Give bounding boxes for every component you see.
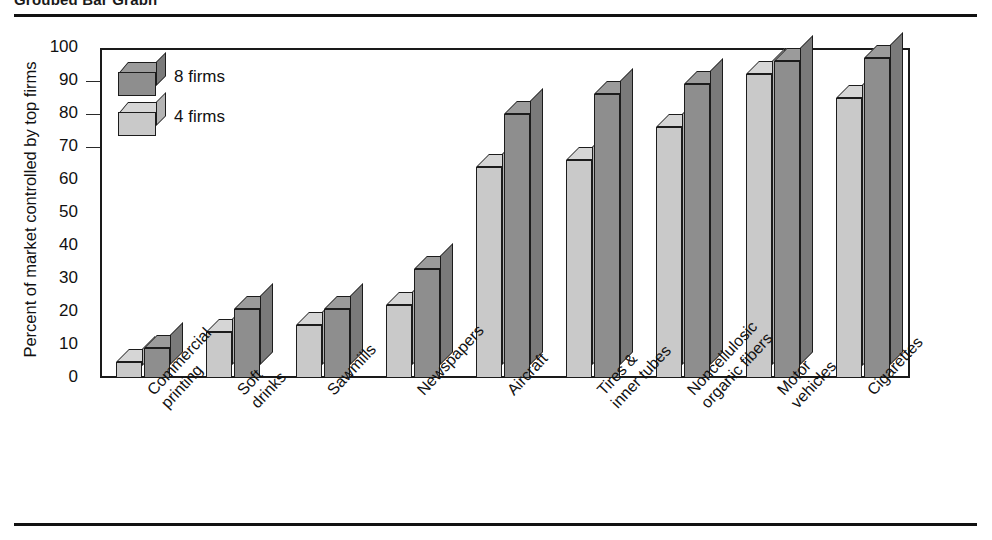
bar-front-face <box>594 94 620 378</box>
y-tick-mark <box>86 114 100 115</box>
grouped-bar-chart: Percent of market controlled by top firm… <box>0 0 992 540</box>
legend-swatch-8-firms <box>118 62 166 96</box>
y-tick-label: 60 <box>20 169 78 189</box>
bar-8-firms <box>774 48 813 378</box>
bar-front-face <box>774 61 800 378</box>
figure-page: Grouped Bar Graph Percent of market cont… <box>0 0 992 540</box>
y-tick-label: 90 <box>20 70 78 90</box>
bar-side-face <box>620 68 633 365</box>
bar-front-face <box>116 362 142 379</box>
bar-front-face <box>566 160 592 378</box>
y-tick-mark <box>86 81 100 82</box>
y-tick-label: 50 <box>20 202 78 222</box>
y-tick-label: 40 <box>20 235 78 255</box>
bar-side-face <box>710 58 723 365</box>
y-tick-mark <box>86 147 100 148</box>
bar-8-firms <box>504 101 543 378</box>
bar-side-face <box>890 32 903 365</box>
bar-front-face <box>504 114 530 378</box>
legend-entry-4-firms: 4 firms <box>118 98 308 138</box>
legend-entry-8-firms: 8 firms <box>118 58 308 98</box>
y-tick-label: 0 <box>20 367 78 387</box>
y-tick-label: 100 <box>20 37 78 57</box>
y-tick-label: 70 <box>20 136 78 156</box>
y-tick-label: 10 <box>20 334 78 354</box>
bar-8-firms <box>684 71 723 378</box>
y-tick-label: 30 <box>20 268 78 288</box>
legend-label-4-firms: 4 firms <box>174 107 225 127</box>
chart-legend: 8 firms 4 firms <box>118 58 308 138</box>
bottom-horizontal-rule <box>14 523 977 526</box>
bar-8-firms <box>864 45 903 378</box>
bar-front-face <box>836 98 862 379</box>
bar-front-face <box>476 167 502 378</box>
bar-8-firms <box>594 81 633 378</box>
legend-swatch-4-firms <box>118 102 166 136</box>
y-tick-label: 20 <box>20 301 78 321</box>
bar-front-face <box>296 325 322 378</box>
bar-front-face <box>386 305 412 378</box>
bar-side-face <box>800 35 813 365</box>
bar-front-face <box>684 84 710 378</box>
legend-label-8-firms: 8 firms <box>174 67 225 87</box>
y-tick-label: 80 <box>20 103 78 123</box>
bar-front-face <box>864 58 890 378</box>
bar-side-face <box>260 283 273 365</box>
bar-side-face <box>530 88 543 365</box>
